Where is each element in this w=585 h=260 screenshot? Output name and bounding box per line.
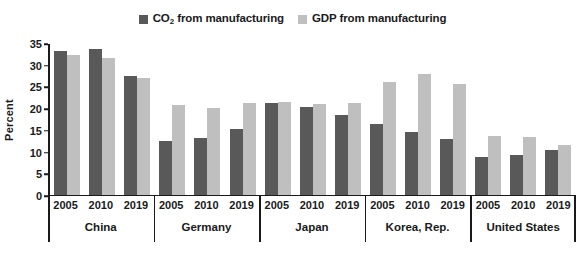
bar — [243, 103, 256, 194]
year-cluster-2019 — [124, 44, 150, 195]
y-tick-mark — [44, 174, 48, 176]
bar — [300, 107, 313, 194]
x-tick-label-year: 2019 — [124, 200, 148, 211]
legend-entry-co2-from-manufacturing: CO2 from manufacturing — [139, 13, 284, 25]
legend-label: CO2 from manufacturing — [153, 13, 284, 25]
bar-group-japan — [260, 44, 365, 195]
x-axis-group-label: United States — [486, 222, 560, 234]
bar — [440, 139, 453, 194]
group-divider — [574, 195, 576, 242]
bar — [313, 104, 326, 195]
group-divider — [259, 195, 261, 242]
x-axis-group-label: Japan — [295, 222, 328, 234]
x-tick-label-year: 2019 — [335, 200, 359, 211]
label-group-china: 200520102019China — [48, 197, 154, 244]
bar — [194, 138, 207, 194]
x-tick-label-year: 2010 — [300, 200, 324, 211]
group-divider — [470, 195, 472, 242]
label-group-japan: 200520102019Japan — [259, 197, 365, 244]
bar — [54, 51, 67, 194]
x-tick-label-year: 2019 — [441, 200, 465, 211]
legend-swatch-icon — [298, 15, 307, 24]
y-tick-mark — [44, 43, 48, 45]
x-tick-label-year: 2010 — [89, 200, 113, 211]
year-cluster-2010 — [510, 44, 536, 195]
y-tick-label: 25 — [30, 82, 42, 93]
year-cluster-2005 — [370, 44, 396, 195]
label-group-united-states: 200520102019United States — [470, 197, 576, 244]
y-tick-mark — [44, 108, 48, 110]
y-tick-label: 35 — [30, 39, 42, 50]
bar — [207, 108, 220, 194]
bar-group-united-states — [471, 44, 576, 195]
x-axis-group-label: China — [85, 222, 117, 234]
year-cluster-2005 — [475, 44, 501, 195]
bar — [383, 82, 396, 194]
bar — [348, 103, 361, 194]
y-tick-mark — [44, 87, 48, 89]
x-axis-group-label: Korea, Rep. — [386, 222, 450, 234]
chart-legend: CO2 from manufacturingGDP from manufactu… — [0, 9, 585, 29]
bar — [278, 102, 291, 195]
group-divider — [365, 195, 367, 242]
x-tick-label-year: 2010 — [405, 200, 429, 211]
y-tick-mark — [44, 152, 48, 154]
country-label-row: China — [48, 222, 154, 234]
y-tick-label: 5 — [36, 169, 42, 180]
year-cluster-2019 — [335, 44, 361, 195]
year-cluster-2010 — [194, 44, 220, 195]
label-group-germany: 200520102019Germany — [154, 197, 260, 244]
bar — [172, 105, 185, 194]
y-tick-mark — [44, 65, 48, 67]
x-axis-group-label: Germany — [181, 222, 231, 234]
year-cluster-2010 — [405, 44, 431, 195]
bar — [89, 49, 102, 195]
country-label-row: Japan — [259, 222, 365, 234]
bar — [453, 84, 466, 195]
y-axis-title: Percent — [2, 44, 16, 196]
country-label-row: United States — [470, 222, 576, 234]
year-label-row: 200520102019 — [259, 197, 365, 222]
x-tick-label-year: 2005 — [159, 200, 183, 211]
plot-area: 05101520253035 — [48, 44, 576, 196]
y-tick-mark — [44, 130, 48, 132]
year-label-row: 200520102019 — [365, 197, 471, 222]
legend-entry-gdp-from-manufacturing: GDP from manufacturing — [298, 13, 446, 25]
x-tick-label-year: 2010 — [194, 200, 218, 211]
year-label-row: 200520102019 — [470, 197, 576, 222]
x-tick-label-year: 2005 — [265, 200, 289, 211]
y-tick-label: 15 — [30, 125, 42, 136]
bar-group-china — [50, 44, 155, 195]
bar — [230, 129, 243, 195]
legend-swatch-icon — [139, 15, 148, 24]
bar — [102, 58, 115, 195]
year-label-row: 200520102019 — [48, 197, 154, 222]
year-cluster-2010 — [300, 44, 326, 195]
bar-group-korea-rep — [365, 44, 470, 195]
bar — [475, 157, 488, 195]
bar — [67, 55, 80, 194]
year-cluster-2019 — [230, 44, 256, 195]
x-tick-label-year: 2005 — [370, 200, 394, 211]
bar — [405, 132, 418, 194]
bar — [558, 145, 571, 195]
year-cluster-2005 — [265, 44, 291, 195]
bar-groups — [50, 44, 577, 195]
bar — [335, 115, 348, 194]
bar — [488, 136, 501, 195]
year-cluster-2019 — [440, 44, 466, 195]
bar — [124, 76, 137, 194]
group-divider — [48, 195, 50, 242]
bar — [523, 137, 536, 195]
bar — [545, 150, 558, 194]
bar — [159, 141, 172, 194]
x-tick-label-year: 2019 — [546, 200, 570, 211]
year-cluster-2005 — [159, 44, 185, 195]
bar-group-germany — [155, 44, 260, 195]
x-axis-label-band: 200520102019China200520102019Germany2005… — [48, 197, 576, 244]
bar — [265, 103, 278, 194]
label-group-korea-rep: 200520102019Korea, Rep. — [365, 197, 471, 244]
group-divider — [154, 195, 156, 242]
bar — [370, 124, 383, 194]
x-tick-label-year: 2010 — [511, 200, 535, 211]
